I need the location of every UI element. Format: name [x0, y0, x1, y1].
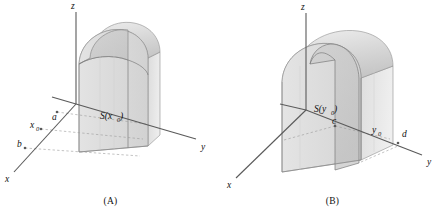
mark-label-d: d: [402, 129, 407, 139]
z-axis-label-a: z: [70, 1, 75, 11]
mark-label-a: a: [52, 112, 57, 122]
mark-label-y0-base: y: [371, 125, 377, 135]
x-axis-label-a: x: [4, 174, 10, 184]
panel-a: z y x a x 0 b S(x 0 ) (A): [0, 0, 221, 221]
solid-b: [282, 30, 393, 172]
tick-b: [24, 147, 27, 150]
y-axis-label-a: y: [200, 142, 206, 152]
region-label-b-end: ): [333, 104, 337, 115]
mark-label-b: b: [17, 139, 22, 149]
panel-a-diagram: z y x a x 0 b S(x 0 ): [0, 0, 221, 200]
solid-a-right-face: [148, 52, 160, 146]
mark-label-x0-sub: 0: [36, 125, 40, 132]
region-label-a-end: ): [119, 111, 123, 122]
panel-b-diagram: z y x S(y 0 ) c y 0 d: [222, 0, 443, 200]
x-axis-a: [14, 104, 76, 172]
tick-x0: [40, 128, 43, 131]
mark-label-x0-base: x: [29, 120, 35, 130]
tick-d: [397, 142, 400, 145]
panel-b: z y x S(y 0 ) c y 0 d (B): [222, 0, 443, 221]
y-axis-label-b: y: [426, 157, 432, 167]
mark-label-x0: x 0: [29, 120, 40, 132]
region-label-a-base: S(x: [100, 111, 113, 122]
region-label-b-base: S(y: [314, 104, 327, 115]
y-axis-negative-a: [52, 97, 76, 104]
z-axis-label-b: z: [300, 2, 305, 12]
solid-b-right-face: [361, 66, 393, 160]
solid-a: [79, 22, 160, 152]
panel-b-caption: (B): [222, 196, 443, 206]
x-axis-label-b: x: [226, 180, 232, 190]
panel-a-caption: (A): [0, 196, 221, 206]
figure-root: z y x a x 0 b S(x 0 ) (A): [0, 0, 443, 221]
